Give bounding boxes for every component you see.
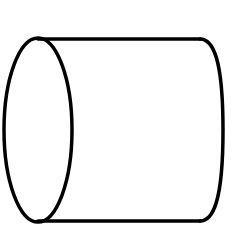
- cylinder-figure-canvas: Cylinder Outline drawing of a horizontal…: [0, 0, 238, 252]
- cylinder-drawing: Cylinder Outline drawing of a horizontal…: [0, 0, 238, 252]
